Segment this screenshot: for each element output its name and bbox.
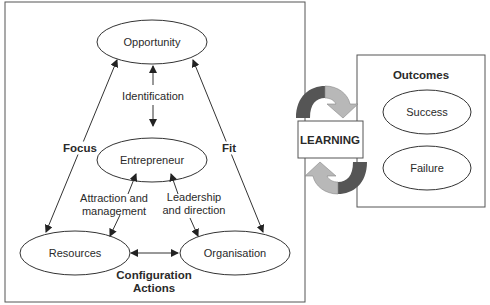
fit-label: Fit	[221, 142, 237, 155]
attraction-line2: management	[80, 205, 148, 218]
attraction-management-label: Attraction and management	[80, 192, 148, 218]
leadership-line1: Leadership	[163, 191, 226, 204]
configuration-line2: Actions	[116, 282, 191, 295]
opportunity-label: Opportunity	[124, 36, 181, 49]
attraction-line1: Attraction and	[80, 192, 148, 205]
identification-label: Identification	[122, 90, 184, 103]
focus-label: Focus	[62, 142, 98, 155]
organisation-label: Organisation	[204, 247, 266, 260]
success-label: Success	[406, 106, 448, 119]
leadership-line2: and direction	[163, 204, 226, 217]
configuration-actions-label: Configuration Actions	[116, 269, 191, 295]
configuration-line1: Configuration	[116, 269, 191, 282]
outcomes-title: Outcomes	[393, 69, 449, 82]
resources-label: Resources	[49, 247, 102, 260]
entrepreneur-label: Entrepreneur	[120, 154, 184, 167]
leadership-direction-label: Leadership and direction	[163, 191, 226, 217]
failure-label: Failure	[410, 162, 444, 175]
leadership-arrow-down	[190, 218, 198, 236]
attraction-arrow-down	[110, 215, 120, 236]
learning-label: LEARNING	[300, 134, 360, 147]
